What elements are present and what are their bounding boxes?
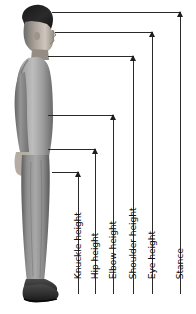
- stance-label: Stance: [175, 248, 184, 279]
- elbow-height-label: Elbow height: [108, 221, 117, 279]
- pants: [21, 155, 50, 282]
- knuckle-height-label: Knuckle height: [73, 212, 82, 279]
- eye-height-arrowhead-icon: [149, 31, 155, 37]
- person-profile-illustration: [0, 0, 80, 314]
- stance-leader-line: [52, 12, 181, 13]
- anthropometric-diagram: Knuckle height Hip height Elbow height S…: [0, 0, 196, 314]
- shoulder-height-leader-line: [48, 56, 134, 57]
- shoulder-height-label: Shoulder height: [128, 208, 137, 280]
- elbow-height-arrowhead-icon: [110, 114, 116, 120]
- stance-arrowhead-icon: [177, 11, 183, 17]
- hip-height-arrowhead-icon: [92, 148, 98, 154]
- eye-height-leader-line: [55, 32, 153, 33]
- ear: [34, 32, 40, 40]
- standing-person-figure: [0, 0, 80, 314]
- knuckle-height-arrowhead-icon: [75, 171, 81, 177]
- elbow-height-leader-line: [48, 115, 114, 116]
- hip-height-leader-line: [48, 149, 96, 150]
- eye-height-label: Eye height: [147, 231, 156, 279]
- hip-height-label: Hip height: [90, 233, 99, 280]
- shoulder-height-arrowhead-icon: [130, 55, 136, 61]
